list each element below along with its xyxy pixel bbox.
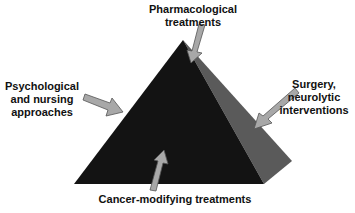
label-surgery: Surgery, neurolytic interventions <box>273 78 355 117</box>
label-pharmacological: Pharmacological treatments <box>120 3 266 29</box>
label-line: treatments <box>120 16 266 29</box>
label-cancer-modifying: Cancer-modifying treatments <box>70 193 280 206</box>
label-line: interventions <box>273 104 355 117</box>
label-line: Psychological <box>0 80 84 93</box>
label-line: Pharmacological <box>120 3 266 16</box>
label-line: Surgery, <box>273 78 355 91</box>
label-line: and nursing <box>0 93 84 106</box>
label-line: Cancer-modifying treatments <box>70 193 280 206</box>
label-psychological: Psychological and nursing approaches <box>0 80 84 119</box>
label-line: approaches <box>0 106 84 119</box>
arrow-left <box>83 94 123 116</box>
arrow-top <box>187 24 205 63</box>
label-line: neurolytic <box>273 91 355 104</box>
